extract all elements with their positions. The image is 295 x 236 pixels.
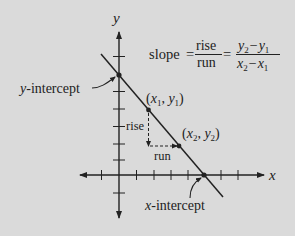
- x-axis: [80, 170, 264, 180]
- y-axis-label: y: [111, 10, 120, 26]
- formula-denominator: x2−x1: [236, 56, 268, 73]
- formula-eq: =: [186, 46, 194, 62]
- point-2-label: (x2, y2): [182, 126, 220, 143]
- y-intercept-label: y-intercept: [18, 81, 80, 96]
- y-intercept-arrow: [92, 77, 115, 88]
- x-intercept-arrow: [190, 178, 201, 198]
- formula-numerator: y2−y1: [236, 38, 269, 55]
- point-1-label: (x1, y1): [146, 91, 184, 108]
- point-2: [177, 144, 182, 149]
- formula-run: run: [197, 55, 216, 70]
- formula-rise: rise: [196, 38, 216, 53]
- rise-label: rise: [126, 119, 145, 133]
- y-intercept-point: [116, 72, 121, 77]
- slope-formula: slope = rise run = y2−y1 x2−x1: [149, 38, 280, 73]
- slope-diagram: x y rise run (x1, y1) (x2, y2) y-interce…: [0, 0, 295, 236]
- y-axis: [113, 32, 125, 218]
- x-intercept-label: x-intercept: [144, 198, 205, 213]
- x-intercept-point: [201, 172, 206, 177]
- run-label: run: [154, 149, 171, 163]
- point-1: [146, 108, 151, 113]
- formula-lhs: slope: [149, 46, 180, 62]
- x-axis-label: x: [268, 167, 276, 183]
- formula-eq2: =: [223, 46, 231, 62]
